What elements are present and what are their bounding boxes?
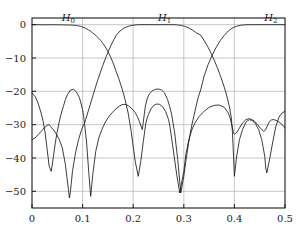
x-tick-label: 0.5 — [277, 213, 293, 224]
x-tick-label: 0.1 — [75, 213, 91, 224]
y-tick-label: −10 — [5, 53, 26, 64]
annotation-letter: H — [61, 12, 71, 23]
x-tick-label: 0 — [29, 213, 35, 224]
chart-figure: 00.10.20.30.40.50−10−20−30−40−50 H0H1H2 — [0, 0, 297, 242]
annotation-subscript: 1 — [167, 17, 171, 25]
x-tick-label: 0.2 — [125, 213, 141, 224]
y-tick-label: −50 — [5, 186, 26, 197]
y-tick-label: 0 — [20, 19, 26, 30]
annotation-subscript: 0 — [71, 17, 75, 25]
x-tick-label: 0.4 — [226, 213, 242, 224]
annotation-letter: H — [263, 12, 273, 23]
y-tick-label: −20 — [5, 86, 26, 97]
annotation-subscript: 2 — [273, 17, 277, 25]
x-tick-label: 0.3 — [176, 213, 192, 224]
annotation-letter: H — [157, 12, 167, 23]
y-tick-label: −40 — [5, 153, 26, 164]
y-tick-label: −30 — [5, 119, 26, 130]
chart-plot-area: 00.10.20.30.40.50−10−20−30−40−50 H0H1H2 — [0, 0, 297, 242]
